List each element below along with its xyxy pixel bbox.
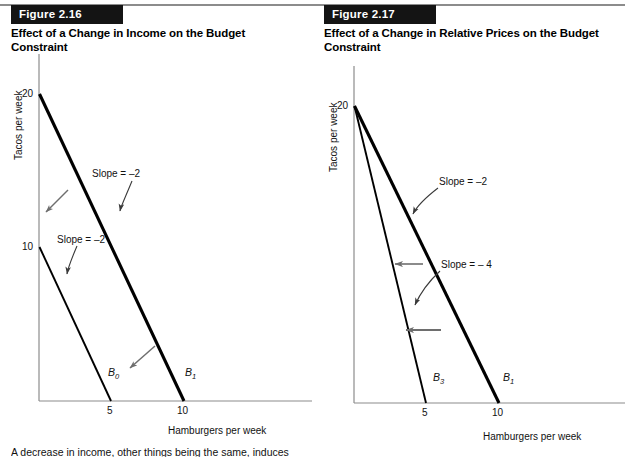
- y-tick-10: 10: [22, 241, 33, 252]
- leader-slope-b1: [413, 188, 438, 214]
- x-tick-10: 10: [492, 407, 503, 418]
- line-label-b1-sub: 1: [192, 372, 196, 381]
- y-axis-label-2-17: Tacos per week: [328, 103, 339, 172]
- annotation-slope-b1: Slope = –2: [92, 168, 140, 179]
- line-label-b3: B3: [433, 371, 444, 386]
- annotation-slope-b0: Slope = –2: [57, 234, 105, 245]
- chart-svg-2-17: [313, 58, 625, 448]
- x-tick-5: 5: [107, 405, 113, 416]
- budget-line-b0: [40, 247, 112, 401]
- budget-line-b1: [40, 94, 185, 401]
- line-label-b1-text: B: [185, 366, 192, 378]
- line-label-b3-sub: 3: [440, 377, 444, 386]
- line-label-b3-text: B: [433, 371, 440, 383]
- figure-panel-2-16: Figure 2.16 Effect of a Change in Income…: [0, 0, 312, 457]
- x-tick-5: 5: [422, 407, 428, 418]
- line-label-b0-text: B: [108, 366, 115, 378]
- shift-arrow-2: [130, 346, 155, 368]
- figure-panel-2-17: Figure 2.17 Effect of a Change in Relati…: [313, 0, 625, 457]
- line-label-b0-sub: 0: [115, 372, 119, 381]
- chart-svg-2-16: [0, 46, 312, 446]
- shift-arrow-1: [46, 190, 68, 212]
- figure-banner-2-16: Figure 2.16: [11, 5, 123, 24]
- y-tick-20: 20: [337, 100, 348, 111]
- x-tick-10: 10: [177, 405, 188, 416]
- y-tick-20: 20: [22, 88, 33, 99]
- budget-line-b1: [355, 106, 500, 403]
- chart-2-17: [313, 58, 625, 448]
- line-label-b1-text: B: [503, 371, 510, 383]
- annotation-slope-b3: Slope = – 4: [441, 259, 492, 270]
- figure-banner-2-17: Figure 2.17: [324, 5, 436, 24]
- figure-title-2-17: Effect of a Change in Relative Prices on…: [324, 27, 614, 54]
- x-axis-label-2-16: Hamburgers per week: [168, 425, 266, 436]
- chart-2-16: [0, 46, 312, 446]
- x-axis-label-2-17: Hamburgers per week: [483, 431, 581, 442]
- leader-slope-b0: [67, 246, 77, 274]
- y-axis-label-2-16: Tacos per week: [13, 91, 24, 160]
- page-caption: A decrease in income, other things being…: [11, 446, 306, 457]
- line-label-b1-sub: 1: [510, 377, 514, 386]
- leader-slope-b1: [120, 181, 132, 211]
- line-label-b1: B1: [503, 371, 514, 386]
- line-label-b0: B0: [108, 366, 119, 381]
- budget-line-b3: [355, 106, 427, 403]
- annotation-slope-b1: Slope = –2: [439, 176, 487, 187]
- line-label-b1: B1: [185, 366, 196, 381]
